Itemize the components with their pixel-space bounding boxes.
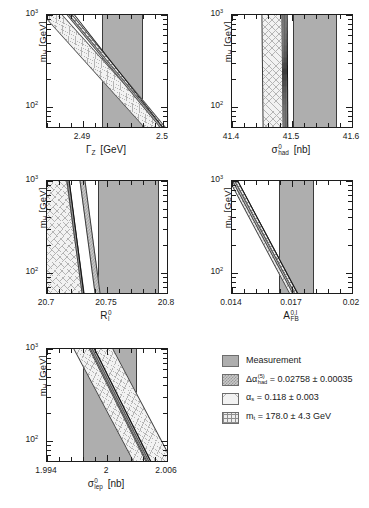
y-tick xyxy=(47,358,51,359)
y-tick-right xyxy=(348,63,352,64)
y-tick xyxy=(47,293,51,294)
x-tick-top xyxy=(119,15,120,19)
x-tick xyxy=(167,123,168,127)
x-tick-top xyxy=(71,15,72,19)
y-tick xyxy=(47,385,51,386)
x-tick xyxy=(83,289,84,293)
supsub-stack: 0l xyxy=(108,310,112,322)
plot-clip xyxy=(232,15,352,127)
x-tick xyxy=(95,289,96,293)
x-tick-top xyxy=(167,15,168,19)
x-tick xyxy=(256,123,257,127)
x-tick xyxy=(155,457,156,461)
x-tick-label: 2 xyxy=(104,465,109,475)
x-tick xyxy=(167,455,168,461)
y-tick-right xyxy=(163,358,167,359)
y-tick-right xyxy=(163,293,167,294)
legend-item-delta-alpha-had: Δα(5)had = 0.02758 ± 0.00035 xyxy=(222,371,368,388)
y-tick-right xyxy=(163,277,167,278)
x-tick xyxy=(268,123,269,127)
y-tick-label: 103 xyxy=(25,174,38,184)
x-tick-label: 41.6 xyxy=(343,131,360,141)
x-tick xyxy=(316,289,317,293)
x-tick-top xyxy=(280,181,281,185)
x-tick xyxy=(119,457,120,461)
y-tick xyxy=(232,107,238,108)
y-tick-label: 102 xyxy=(25,434,38,444)
x-tick xyxy=(155,123,156,127)
x-tick-major xyxy=(352,287,353,293)
y-tick xyxy=(47,369,51,370)
x-tick-top xyxy=(59,15,60,19)
supsub-stack: 0,lFB xyxy=(291,310,299,322)
x-tick-top xyxy=(304,181,305,185)
x-tick-label: 0.017 xyxy=(280,297,301,307)
y-tick xyxy=(47,397,51,398)
x-tick xyxy=(71,457,72,461)
x-tick-major xyxy=(292,287,293,293)
x-tick-top xyxy=(155,15,156,19)
x-tick xyxy=(304,289,305,293)
y-tick xyxy=(47,190,51,191)
x-tick-top xyxy=(95,15,96,19)
panel-gamma-z: mH [GeV]1021032.492.5ΓZ [GeV] xyxy=(0,2,184,170)
y-tick xyxy=(47,43,51,44)
x-tick-label: 41.5 xyxy=(283,131,300,141)
y-tick-right xyxy=(348,293,352,294)
x-tick-top xyxy=(328,15,329,19)
y-tick-right xyxy=(348,195,352,196)
y-tick-right xyxy=(163,413,167,414)
legend-value-delta-alpha-had: = 0.02758 ± 0.00035 xyxy=(270,374,353,384)
x-tick-major xyxy=(232,287,233,293)
y-tick xyxy=(47,51,51,52)
plot-area xyxy=(46,14,168,128)
legend-symbol-delta-alpha: Δα xyxy=(246,374,257,384)
y-tick-right xyxy=(348,127,352,128)
x-tick xyxy=(340,289,341,293)
x-tick-top xyxy=(232,181,233,187)
x-tick xyxy=(131,123,132,127)
x-tick-label: 0.014 xyxy=(220,297,241,307)
x-tick-top xyxy=(119,181,120,185)
y-tick-right xyxy=(348,24,352,25)
y-tick-right xyxy=(348,277,352,278)
x-tick-major xyxy=(163,121,164,127)
y-tick xyxy=(47,377,51,378)
x-tick-major xyxy=(83,121,84,127)
y-tick xyxy=(47,24,51,25)
x-tick-top xyxy=(167,181,168,187)
y-tick-right xyxy=(163,397,167,398)
legend-value-m-t: = 178.0 ± 4.3 GeV xyxy=(258,411,331,421)
y-tick xyxy=(47,19,51,20)
x-tick-top xyxy=(232,15,233,21)
theory-band-alpha_s xyxy=(261,15,284,127)
y-tick xyxy=(232,201,236,202)
y-tick-right xyxy=(163,190,167,191)
y-tick-label: 102 xyxy=(210,100,223,110)
y-tick xyxy=(47,121,51,122)
y-tick xyxy=(232,29,236,30)
x-tick-top xyxy=(304,15,305,19)
x-axis-label: σ0lep [nb] xyxy=(46,478,166,490)
legend-sub-m-t: t xyxy=(254,416,256,422)
x-tick xyxy=(155,289,156,293)
x-tick xyxy=(304,123,305,127)
x-axis-unit: [nb] xyxy=(103,478,124,489)
x-tick xyxy=(244,123,245,127)
x-tick-label: 1.994 xyxy=(35,465,56,475)
x-tick xyxy=(328,123,329,127)
legend-sub-alpha-s: s xyxy=(251,397,254,403)
x-tick xyxy=(119,289,120,293)
y-tick-right xyxy=(163,369,167,370)
legend-item-m-t: mt = 178.0 ± 4.3 GeV xyxy=(222,409,368,426)
x-tick xyxy=(59,123,60,127)
y-tick-right xyxy=(163,79,167,80)
measurement-band xyxy=(98,181,159,293)
x-tick xyxy=(143,289,144,293)
x-tick-top xyxy=(131,15,132,19)
x-tick-top xyxy=(59,181,60,185)
x-tick-top xyxy=(340,15,341,19)
x-axis-symbol: σ xyxy=(272,144,278,155)
x-tick-top xyxy=(143,181,144,185)
crosshatch-light-swatch xyxy=(222,393,239,405)
